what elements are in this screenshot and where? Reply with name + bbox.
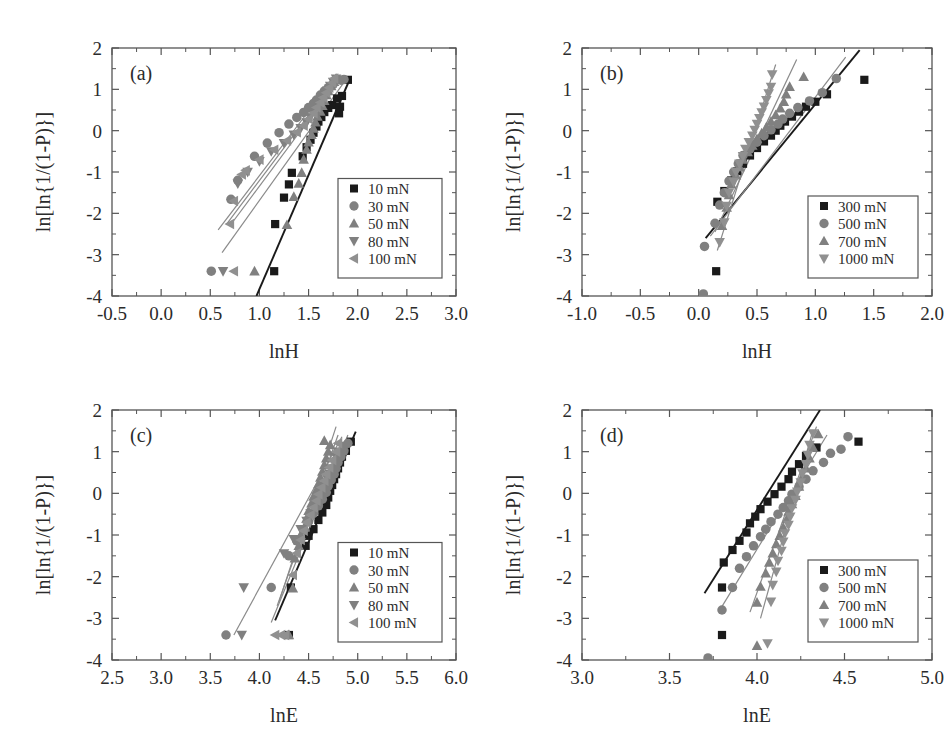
legend-b: 300 mN500 mN700 mN1000 mN [808, 196, 918, 278]
x-tick-label: 5.5 [395, 667, 419, 688]
legend-c: 10 mN30 mN50 mN80 mN100 mN [338, 543, 442, 643]
legend-label: 30 mN [368, 563, 409, 579]
legend-label: 10 mN [368, 181, 409, 197]
legend-label: 50 mN [368, 216, 409, 232]
y-tick-label: -3 [556, 245, 572, 266]
y-axis-title: ln[ln{1/(1-P)}] [502, 112, 525, 232]
x-tick-label: 0.5 [198, 303, 222, 324]
y-tick-label: 2 [93, 38, 103, 59]
y-tick-label: 2 [563, 400, 573, 421]
y-tick-label: 0 [93, 483, 103, 504]
y-axis-title: ln[ln{1/(1-P)}] [32, 475, 55, 595]
legend-label: 100 mN [368, 251, 417, 267]
x-tick-label: 0.5 [745, 303, 769, 324]
legend-label: 80 mN [368, 598, 409, 614]
x-tick-label: 1.0 [803, 303, 827, 324]
y-tick-label: -1 [556, 525, 572, 546]
x-tick-label: 2.0 [920, 303, 944, 324]
y-tick-label: 1 [563, 79, 573, 100]
legend-label: 300 mN [838, 199, 887, 215]
panel-tag-a: (a) [130, 62, 152, 85]
y-tick-label: -3 [556, 608, 572, 629]
legend-marker [819, 219, 828, 228]
chart-panel-a: -0.50.00.51.01.52.02.53.0210-1-2-3-4lnHl… [0, 0, 475, 365]
y-tick-label: 1 [93, 442, 103, 463]
chart-panel-c: 2.53.03.54.04.55.05.56.0210-1-2-3-4lnEln… [0, 362, 475, 729]
y-tick-label: -2 [556, 203, 572, 224]
x-tick-label: 2.0 [346, 303, 370, 324]
panel-tag-b: (b) [600, 62, 623, 85]
y-tick-label: -3 [86, 245, 102, 266]
legend-label: 80 mN [368, 234, 409, 250]
y-tick-label: -2 [86, 203, 102, 224]
x-tick-label: 3.0 [570, 667, 594, 688]
legend-label: 1000 mN [838, 615, 894, 631]
x-tick-label: 3.5 [658, 667, 682, 688]
y-tick-label: 0 [563, 121, 573, 142]
legend-label: 500 mN [838, 580, 887, 596]
x-tick-label: 4.5 [833, 667, 857, 688]
legend-marker [820, 202, 828, 210]
legend-d: 300 mN500 mN700 mN1000 mN [808, 560, 918, 642]
legend-label: 300 mN [838, 563, 887, 579]
legend-label: 1000 mN [838, 251, 894, 267]
legend-label: 700 mN [838, 598, 887, 614]
x-tick-label: 5.0 [346, 667, 370, 688]
y-tick-label: 0 [563, 483, 573, 504]
x-tick-label: 4.5 [297, 667, 321, 688]
legend-marker [819, 583, 828, 592]
y-tick-label: -3 [86, 608, 102, 629]
x-tick-label: 3.0 [444, 303, 468, 324]
y-tick-label: 1 [93, 79, 103, 100]
legend-a: 10 mN30 mN50 mN80 mN100 mN [338, 179, 442, 279]
y-tick-label: 1 [563, 442, 573, 463]
x-tick-label: 5.0 [920, 667, 944, 688]
legend-marker [349, 565, 358, 574]
y-axis-title: ln[ln{1/(1-P)}] [32, 112, 55, 232]
y-tick-label: 0 [93, 121, 103, 142]
y-tick-label: -1 [556, 162, 572, 183]
x-tick-label: 2.5 [100, 667, 124, 688]
x-tick-label: 1.5 [862, 303, 886, 324]
y-tick-label: -4 [556, 286, 572, 307]
x-tick-label: -0.5 [625, 303, 655, 324]
x-tick-label: 0.0 [149, 303, 173, 324]
y-tick-label: -4 [86, 286, 102, 307]
x-tick-label: 6.0 [444, 667, 468, 688]
y-tick-label: -1 [86, 525, 102, 546]
legend-label: 100 mN [368, 615, 417, 631]
panel-tag-c: (c) [130, 424, 152, 447]
legend-label: 500 mN [838, 216, 887, 232]
y-tick-label: 2 [93, 400, 103, 421]
y-tick-label: -2 [556, 567, 572, 588]
legend-label: 30 mN [368, 199, 409, 215]
x-axis-title: lnH [269, 340, 299, 362]
x-tick-label: 0.0 [687, 303, 711, 324]
panel-tag-d: (d) [600, 424, 623, 447]
x-tick-label: 3.0 [149, 667, 173, 688]
legend-label: 50 mN [368, 580, 409, 596]
y-tick-label: -4 [556, 650, 572, 671]
weibull-figure: -0.50.00.51.01.52.02.53.0210-1-2-3-4lnHl… [0, 0, 950, 729]
x-tick-label: 2.5 [395, 303, 419, 324]
legend-marker [350, 185, 358, 193]
legend-marker [349, 201, 358, 210]
legend-marker [820, 566, 828, 574]
x-axis-title: lnH [742, 340, 772, 362]
y-tick-label: -4 [86, 650, 102, 671]
chart-panel-b: -1.0-0.50.00.51.01.52.0210-1-2-3-4lnHln[… [470, 0, 950, 365]
y-tick-label: 2 [563, 38, 573, 59]
y-axis-title: ln[ln{1/(1-P)}] [502, 475, 525, 595]
x-axis-title: lnE [743, 704, 771, 726]
chart-panel-d: 3.03.54.04.55.0210-1-2-3-4lnEln[ln{1/(1-… [470, 362, 950, 729]
legend-marker [350, 549, 358, 557]
x-tick-label: 3.5 [198, 667, 222, 688]
legend-label: 10 mN [368, 545, 409, 561]
y-tick-label: -2 [86, 567, 102, 588]
x-tick-label: 1.0 [248, 303, 272, 324]
x-axis-title: lnE [270, 704, 298, 726]
x-tick-label: 4.0 [248, 667, 272, 688]
x-tick-label: 4.0 [745, 667, 769, 688]
y-tick-label: -1 [86, 162, 102, 183]
legend-label: 700 mN [838, 234, 887, 250]
